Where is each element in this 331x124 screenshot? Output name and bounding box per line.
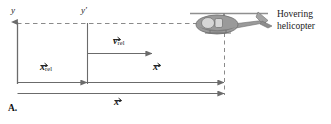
x-prime-symbol: x — [153, 61, 158, 72]
x-prime-mark: ′ — [158, 62, 160, 72]
x-rel-vector-label: x rel — [40, 62, 52, 73]
vector-hat-icon: x — [153, 62, 158, 73]
helicopter-callout-line2: helicopter — [277, 21, 315, 33]
physics-diagram-panel-a: y y′ v rel x rel x ′ — [0, 0, 331, 124]
vector-hat-icon: x — [40, 62, 45, 73]
x-rel-subscript: rel — [45, 65, 52, 72]
x-rel-symbol: x — [40, 61, 45, 72]
v-rel-subscript: rel — [117, 39, 124, 46]
yprime-axis-label: y′ — [81, 6, 87, 15]
vector-hat-icon: x — [114, 97, 119, 108]
x-prime-vector-label: x ′ — [153, 62, 160, 73]
v-rel-vector-label: v rel — [113, 36, 125, 47]
v-rel-symbol: v — [113, 35, 117, 46]
vector-hat-icon: v — [113, 36, 117, 47]
helicopter-icon — [190, 12, 272, 34]
x-total-vector-label: x — [114, 97, 119, 108]
panel-label: A. — [8, 104, 17, 114]
helicopter-callout: Hovering helicopter — [277, 9, 315, 33]
y-axis-label: y — [11, 6, 15, 15]
helicopter-callout-line1: Hovering — [277, 9, 315, 21]
x-total-symbol: x — [114, 96, 119, 107]
